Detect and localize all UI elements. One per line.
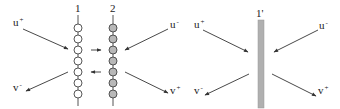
label-v-minus: v-: [13, 82, 22, 93]
bead: [74, 90, 82, 98]
label-v-plus: v+: [170, 85, 180, 96]
label-u-minus-right: u-: [319, 20, 328, 31]
bead: [74, 24, 82, 32]
bead: [74, 79, 82, 87]
arrow-u-plus-in-right: [203, 30, 248, 52]
label-u-minus: u-: [170, 19, 179, 30]
bead: [74, 35, 82, 43]
bead: [109, 24, 117, 32]
arrow-u-minus-in: [125, 29, 168, 50]
label-u-plus-right: u+: [194, 19, 204, 30]
chain-1: [74, 15, 82, 106]
bead: [109, 57, 117, 65]
bead: [74, 68, 82, 76]
label-v-plus-right: v+: [318, 85, 328, 96]
label-u-plus: u+: [13, 17, 23, 28]
bead: [109, 35, 117, 43]
chain-2-label: 2: [110, 3, 116, 14]
bead: [109, 79, 117, 87]
arrow-u-minus-in-right: [274, 30, 318, 52]
arrow-v-plus-out: [125, 72, 168, 93]
label-v-minus-right: v-: [194, 85, 203, 96]
arrow-v-plus-out-right: [272, 74, 316, 96]
bead: [74, 46, 82, 54]
bead: [109, 46, 117, 54]
bead: [109, 68, 117, 76]
effective-interface-bar: [258, 20, 264, 108]
arrow-v-minus-out: [26, 72, 68, 91]
left-panel: [23, 15, 168, 106]
chain-2: [109, 15, 117, 106]
bar-label: 1': [256, 8, 263, 19]
bead: [109, 90, 117, 98]
arrow-u-plus-in: [23, 29, 68, 49]
right-panel: [203, 20, 318, 108]
bead: [74, 57, 82, 65]
arrow-v-minus-out-right: [205, 74, 249, 95]
chain-1-label: 1: [75, 3, 81, 14]
